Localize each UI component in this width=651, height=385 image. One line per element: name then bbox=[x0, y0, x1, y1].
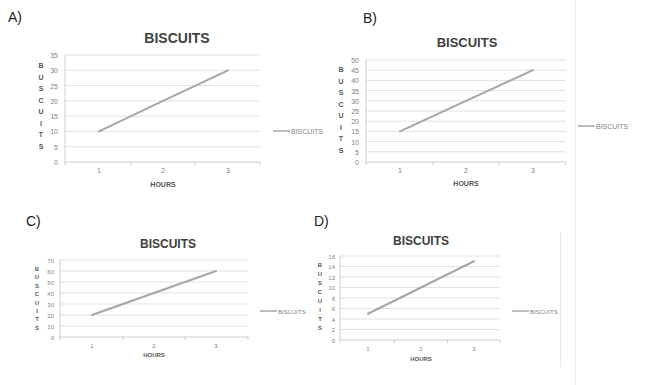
y-tick-label: 0 bbox=[51, 335, 55, 341]
y-axis-label-letter: U bbox=[38, 74, 43, 81]
y-axis-label-letter: S bbox=[318, 280, 322, 286]
y-axis-label-letter: C bbox=[338, 101, 343, 108]
y-tick-label: 12 bbox=[328, 275, 335, 281]
charts-canvas: BISCUITS05101520253035123HOURSBUSCUITSBI… bbox=[0, 0, 651, 385]
y-tick-label: 6 bbox=[332, 306, 336, 312]
y-tick-label: 10 bbox=[351, 139, 359, 146]
chart-title: BISCUITS bbox=[393, 234, 449, 248]
y-tick-label: 16 bbox=[328, 254, 335, 260]
y-axis-label-letter: B bbox=[38, 62, 43, 69]
x-axis-label: HOURS bbox=[150, 181, 176, 188]
y-axis-label-letter: S bbox=[35, 325, 39, 331]
y-tick-label: 70 bbox=[47, 258, 54, 264]
y-tick-label: 45 bbox=[351, 67, 359, 74]
y-axis-label-letter: T bbox=[35, 316, 39, 322]
y-tick-label: 14 bbox=[328, 264, 335, 270]
y-tick-label: 2 bbox=[332, 327, 336, 333]
x-axis-label: HOURS bbox=[410, 356, 432, 362]
y-axis-label-letter: C bbox=[318, 289, 323, 295]
y-tick-label: 10 bbox=[328, 285, 335, 291]
y-tick-label: 10 bbox=[47, 324, 54, 330]
x-tick-label: 1 bbox=[398, 167, 402, 174]
y-axis-label-letter: B bbox=[318, 262, 323, 268]
y-tick-label: 25 bbox=[50, 83, 58, 90]
y-tick-label: 8 bbox=[332, 296, 336, 302]
legend-label: BISCUITS bbox=[291, 128, 324, 135]
y-tick-label: 35 bbox=[50, 52, 58, 59]
y-axis-label-letter: U bbox=[35, 300, 39, 306]
y-axis-label-letter: U bbox=[38, 108, 43, 115]
x-tick-label: 3 bbox=[531, 167, 535, 174]
y-axis-label-letter: I bbox=[36, 308, 38, 314]
x-tick-label: 1 bbox=[366, 346, 370, 352]
legend-label: BISCUITS bbox=[530, 309, 558, 315]
y-axis-label-letter: B bbox=[35, 266, 40, 272]
chart-title: BISCUITS bbox=[140, 237, 196, 251]
y-axis-label-letter: S bbox=[35, 283, 39, 289]
y-axis-label-letter: S bbox=[318, 325, 322, 331]
y-tick-label: 40 bbox=[47, 291, 54, 297]
y-tick-label: 35 bbox=[351, 88, 359, 95]
y-tick-label: 10 bbox=[50, 128, 58, 135]
x-tick-label: 1 bbox=[90, 343, 94, 349]
y-tick-label: 30 bbox=[47, 302, 54, 308]
x-tick-label: 2 bbox=[152, 343, 156, 349]
x-axis-label: HOURS bbox=[143, 352, 165, 358]
y-tick-label: 15 bbox=[50, 113, 58, 120]
y-axis-label-letter: I bbox=[40, 120, 42, 127]
y-tick-label: 4 bbox=[332, 317, 336, 323]
y-tick-label: 30 bbox=[351, 98, 359, 105]
y-axis-label-letter: S bbox=[339, 89, 344, 96]
y-tick-label: 20 bbox=[50, 98, 58, 105]
y-axis-label-letter: C bbox=[38, 97, 43, 104]
y-axis-label-letter: C bbox=[35, 291, 40, 297]
y-axis-label-letter: B bbox=[338, 66, 343, 73]
y-tick-label: 40 bbox=[351, 77, 359, 84]
y-tick-label: 5 bbox=[355, 149, 359, 156]
y-axis-label-letter: S bbox=[339, 147, 344, 154]
y-axis-label-letter: T bbox=[339, 135, 344, 142]
y-tick-label: 0 bbox=[332, 338, 336, 344]
y-tick-label: 25 bbox=[351, 108, 359, 115]
y-axis-label-letter: S bbox=[39, 143, 44, 150]
y-axis-label-letter: I bbox=[340, 124, 342, 131]
x-tick-label: 2 bbox=[161, 167, 165, 174]
y-tick-label: 15 bbox=[351, 128, 359, 135]
x-axis-label: HOURS bbox=[453, 180, 479, 187]
y-axis-label-letter: T bbox=[318, 316, 322, 322]
x-tick-label: 3 bbox=[214, 343, 218, 349]
y-axis-label-letter: I bbox=[319, 307, 321, 313]
x-tick-label: 3 bbox=[472, 346, 476, 352]
y-tick-label: 50 bbox=[47, 280, 54, 286]
y-tick-label: 30 bbox=[50, 67, 58, 74]
y-tick-label: 60 bbox=[47, 269, 54, 275]
x-tick-label: 2 bbox=[419, 346, 423, 352]
x-tick-label: 2 bbox=[464, 167, 468, 174]
chart-title: BISCUITS bbox=[437, 35, 498, 50]
y-tick-label: 0 bbox=[355, 159, 359, 166]
x-tick-label: 3 bbox=[226, 167, 230, 174]
y-axis-label-letter: S bbox=[39, 85, 44, 92]
y-axis-label-letter: U bbox=[338, 78, 343, 85]
y-axis-label-letter: U bbox=[318, 271, 322, 277]
x-tick-label: 1 bbox=[97, 167, 101, 174]
y-tick-label: 0 bbox=[54, 159, 58, 166]
y-axis-label-letter: T bbox=[39, 131, 44, 138]
y-axis-label-letter: U bbox=[338, 112, 343, 119]
y-tick-label: 5 bbox=[54, 144, 58, 151]
legend-label: BISCUITS bbox=[278, 309, 306, 315]
y-tick-label: 20 bbox=[47, 313, 54, 319]
y-axis-label-letter: U bbox=[35, 274, 39, 280]
y-tick-label: 50 bbox=[351, 57, 359, 64]
chart-title: BISCUITS bbox=[144, 30, 209, 46]
y-tick-label: 20 bbox=[351, 118, 359, 125]
legend-label: BISCUITS bbox=[596, 123, 629, 130]
y-axis-label-letter: U bbox=[318, 298, 322, 304]
